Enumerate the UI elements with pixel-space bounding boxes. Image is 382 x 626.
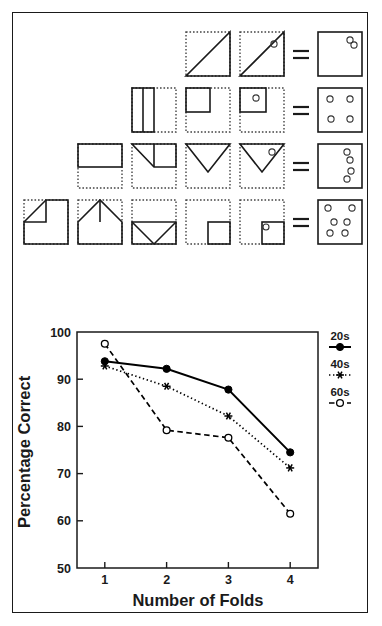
data-point	[101, 340, 108, 347]
chart-legend: 20s40s60s	[329, 330, 351, 406]
fold-row-4-step-5	[240, 200, 284, 244]
fold-row-4-step-3	[132, 200, 176, 244]
fold-row-2-equals-sign	[293, 107, 309, 114]
legend-item-60s[interactable]: 60s	[329, 386, 351, 406]
fold-row-1-step-1	[186, 32, 230, 76]
fold-row-3	[78, 144, 362, 188]
data-point	[287, 510, 294, 517]
fold-row-4-step-1	[24, 200, 68, 244]
fold-row-1	[186, 32, 362, 76]
y-tick-label: 80	[57, 420, 71, 434]
data-point	[287, 449, 294, 456]
legend-label: 40s	[330, 358, 349, 370]
fold-row-4-step-2	[78, 200, 122, 244]
x-tick-label: 1	[101, 573, 108, 587]
y-tick-label: 50	[57, 562, 71, 576]
legend-marker	[337, 400, 344, 407]
paper-folding-svg: .sq-solid{fill:none;stroke:#1a1a1a;strok…	[0, 0, 382, 300]
data-point	[163, 427, 170, 434]
x-tick-label: 3	[225, 573, 232, 587]
y-tick-label: 60	[57, 514, 71, 528]
chart-plot-frame	[77, 332, 318, 568]
legend-marker	[336, 372, 344, 379]
data-point	[225, 386, 232, 393]
data-point	[101, 358, 108, 365]
legend-item-20s[interactable]: 20s	[329, 330, 351, 351]
fold-row-1-result	[318, 32, 362, 76]
fold-row-3-step-4	[240, 144, 284, 188]
x-tick-label: 4	[287, 573, 294, 587]
legend-marker	[336, 343, 343, 350]
chart-series	[101, 340, 294, 517]
chart-x-axis-label: Number of Folds	[132, 591, 263, 609]
fold-row-2-step-3	[240, 88, 284, 132]
fold-row-3-equals-sign	[293, 163, 309, 170]
fold-row-4-step-4	[186, 200, 230, 244]
data-point	[163, 365, 170, 372]
fold-row-1-step-2	[240, 32, 284, 76]
y-tick-label: 100	[50, 326, 71, 340]
data-point	[163, 383, 171, 390]
chart-svg: 50607080901001234 20s40s60s Percentage C…	[0, 300, 382, 620]
chart-axes	[77, 332, 318, 568]
fold-row-4-equals-sign	[293, 219, 309, 226]
chart-tick-labels: 50607080901001234	[50, 326, 294, 588]
legend-item-40s[interactable]: 40s	[329, 358, 351, 378]
fold-row-2	[132, 88, 362, 132]
fold-row-3-step-2	[132, 144, 176, 188]
fold-row-2-step-2	[186, 88, 230, 132]
fold-row-3-result	[318, 144, 362, 188]
data-point	[225, 434, 232, 441]
x-tick-label: 2	[163, 573, 170, 587]
fold-row-4-result	[318, 200, 362, 244]
chart-series-20s	[101, 358, 294, 456]
fold-row-4	[24, 200, 362, 244]
y-tick-label: 70	[57, 467, 71, 481]
fold-row-3-step-3	[186, 144, 230, 188]
paper-folding-diagram: .sq-solid{fill:none;stroke:#1a1a1a;strok…	[0, 0, 382, 300]
percentage-correct-chart: 50607080901001234 20s40s60s Percentage C…	[0, 300, 382, 620]
fold-row-2-result	[318, 88, 362, 132]
figure-container: .sq-solid{fill:none;stroke:#1a1a1a;strok…	[0, 0, 382, 626]
fold-row-3-step-1	[78, 144, 122, 188]
series-line	[105, 344, 290, 514]
fold-row-2-step-1	[132, 88, 176, 132]
legend-label: 20s	[330, 330, 349, 342]
chart-y-axis-label: Percentage Correct	[15, 375, 33, 528]
data-point	[286, 464, 294, 471]
fold-row-1-equals-sign	[293, 51, 309, 58]
chart-series-60s	[101, 340, 293, 517]
y-tick-label: 90	[57, 373, 71, 387]
legend-label: 60s	[330, 386, 349, 398]
